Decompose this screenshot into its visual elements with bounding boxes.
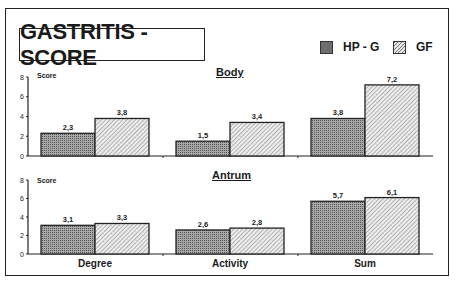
bar-degree-hp-g: [41, 225, 95, 254]
y-tick-label: 0: [20, 251, 24, 258]
y-tick-label: 0: [20, 153, 24, 160]
bar-value-label: 5,7: [333, 191, 343, 200]
y-tick-label: 6: [20, 195, 24, 202]
bar-value-label: 7,2: [387, 75, 397, 84]
bar-value-label: 3,8: [117, 108, 127, 117]
bar-value-label: 3,8: [333, 108, 343, 117]
y-tick-label: 2: [20, 232, 24, 239]
bar-value-label: 3,1: [63, 215, 73, 224]
bar-degree-gf: [95, 118, 149, 156]
chart-antrum: 024683,13,32,62,85,76,1: [20, 177, 433, 258]
bar-sum-gf: [365, 85, 419, 156]
bar-value-label: 1,5: [198, 131, 208, 140]
y-tick-label: 4: [20, 214, 24, 221]
bar-activity-hp-g: [176, 230, 230, 254]
y-tick-label: 8: [20, 177, 24, 184]
y-tick-label: 8: [20, 74, 24, 81]
bar-activity-hp-g: [176, 141, 230, 156]
bar-sum-gf: [365, 198, 419, 254]
bar-value-label: 2,3: [63, 123, 73, 132]
bar-degree-gf: [95, 223, 149, 254]
bar-activity-gf: [230, 122, 284, 156]
y-tick-label: 4: [20, 113, 24, 120]
bar-value-label: 6,1: [387, 188, 397, 197]
chart-body: 024682,33,81,53,43,87,2: [20, 74, 433, 160]
bar-activity-gf: [230, 228, 284, 254]
bar-sum-hp-g: [311, 201, 365, 254]
bar-value-label: 2,8: [252, 218, 262, 227]
bar-value-label: 3,4: [252, 112, 263, 121]
bar-charts: 024682,33,81,53,43,87,2 024683,13,32,62,…: [0, 0, 457, 282]
bar-value-label: 3,3: [117, 213, 127, 222]
bar-degree-hp-g: [41, 133, 95, 156]
y-tick-label: 2: [20, 133, 24, 140]
bar-value-label: 2,6: [198, 220, 208, 229]
bar-sum-hp-g: [311, 118, 365, 156]
y-tick-label: 6: [20, 93, 24, 100]
